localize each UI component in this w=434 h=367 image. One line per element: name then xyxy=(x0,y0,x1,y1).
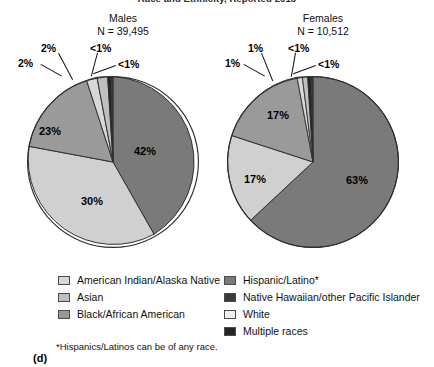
figure-footnote: *Hispanics/Latinos can be of any race. xyxy=(56,341,218,352)
legend-swatch-native-hawaiian-pacific-islander xyxy=(224,293,236,302)
figure-title-strip: Race and Ethnicity, Reported 2013 xyxy=(0,0,434,7)
males-sample-size: N = 39,495 xyxy=(48,25,198,38)
legend-column-right: Hispanic/Latino* Native Hawaiian/other P… xyxy=(224,273,420,341)
legend-label-native-hawaiian-pacific-islander: Native Hawaiian/other Pacific Islander xyxy=(243,292,420,303)
males-pie-svg xyxy=(24,73,202,251)
legend-swatch-asian xyxy=(58,293,70,302)
legend-label-black-african-american: Black/African American xyxy=(77,309,185,320)
legend-item-native-hawaiian-pacific-islander: Native Hawaiian/other Pacific Islander xyxy=(224,290,420,305)
legend-item-hispanic-latino: Hispanic/Latino* xyxy=(224,273,420,288)
panel-label: (d) xyxy=(33,352,47,364)
females-label-black-african-american: 17% xyxy=(267,109,289,121)
legend-label-asian: Asian xyxy=(77,292,103,303)
legend-label-american-indian-alaska-native: American Indian/Alaska Native xyxy=(77,275,220,286)
females-panel-header: Females N = 10,512 xyxy=(248,12,398,37)
legend-swatch-hispanic-latino xyxy=(224,276,236,285)
females-pie-svg xyxy=(224,73,402,251)
legend-item-american-indian-alaska-native: American Indian/Alaska Native xyxy=(58,273,220,288)
females-pie-chart: 63% 17% 17% xyxy=(224,73,402,251)
males-title: Males xyxy=(48,12,198,25)
figure-title: Race and Ethnicity, Reported 2013 xyxy=(0,0,434,4)
males-label-hispanic-latino: 42% xyxy=(134,145,156,157)
males-label-black-african-american: 23% xyxy=(39,125,61,137)
legend-label-white: White xyxy=(243,309,270,320)
legend-item-white: White xyxy=(224,307,420,322)
males-panel-header: Males N = 39,495 xyxy=(48,12,198,37)
males-callout-asian: 2% xyxy=(41,42,56,54)
females-callout-native-hawaiian: <1% xyxy=(318,58,339,70)
legend-column-left: American Indian/Alaska Native Asian Blac… xyxy=(58,273,220,324)
females-sample-size: N = 10,512 xyxy=(248,25,398,38)
legend-item-asian: Asian xyxy=(58,290,220,305)
females-label-white: 17% xyxy=(244,173,266,185)
legend-item-black-african-american: Black/African American xyxy=(58,307,220,322)
males-label-white: 30% xyxy=(81,195,103,207)
legend-label-hispanic-latino: Hispanic/Latino* xyxy=(243,275,319,286)
legend: American Indian/Alaska Native Asian Blac… xyxy=(0,273,434,331)
males-callout-native-hawaiian: <1% xyxy=(118,58,139,70)
legend-swatch-american-indian-alaska-native xyxy=(58,276,70,285)
females-callout-american-indian: 1% xyxy=(225,57,240,69)
males-callout-american-indian: 2% xyxy=(18,57,33,69)
legend-swatch-multiple-races xyxy=(224,327,236,336)
females-callout-multiple-races: <1% xyxy=(288,42,309,54)
legend-swatch-white xyxy=(224,310,236,319)
females-title: Females xyxy=(248,12,398,25)
legend-label-multiple-races: Multiple races xyxy=(243,326,308,337)
legend-swatch-black-african-american xyxy=(58,310,70,319)
males-callout-multiple-races: <1% xyxy=(90,42,111,54)
males-pie-chart: 42% 30% 23% xyxy=(24,73,202,251)
females-label-hispanic-latino: 63% xyxy=(346,174,368,186)
legend-item-multiple-races: Multiple races xyxy=(224,324,420,339)
